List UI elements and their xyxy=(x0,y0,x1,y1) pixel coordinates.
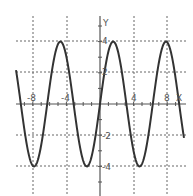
y-axis-label: Y xyxy=(102,18,109,28)
y-tick-label-4: 4 xyxy=(102,36,108,46)
function-graph: X Y -8 -4 4 8 4 2 -2 -4 xyxy=(0,0,193,196)
labels: X Y -8 -4 4 8 4 2 -2 -4 xyxy=(27,18,182,172)
y-tick-label-neg4: -4 xyxy=(102,162,111,172)
x-tick-label-8: 8 xyxy=(164,93,170,103)
x-axis-label: X xyxy=(176,93,182,103)
y-tick-label-neg2: -2 xyxy=(102,131,111,141)
x-tick-label-neg4: -4 xyxy=(61,93,70,103)
x-tick-label-4: 4 xyxy=(131,93,137,103)
y-tick-label-2: 2 xyxy=(102,67,108,77)
x-tick-label-neg8: -8 xyxy=(27,93,36,103)
